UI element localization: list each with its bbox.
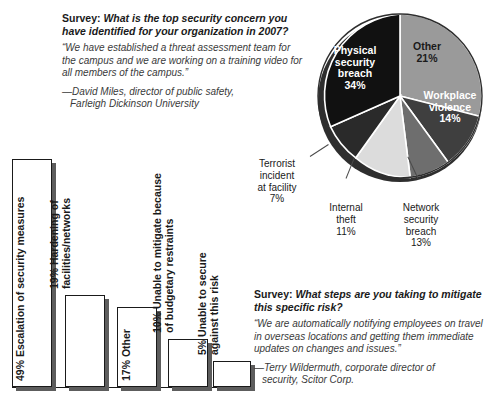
- callout-line2: theft: [336, 214, 355, 225]
- callout-line1: Internal: [329, 202, 362, 213]
- pie-chart: [314, 10, 486, 182]
- survey-top-heading-lead: Survey:: [62, 12, 101, 24]
- bar-label-escalation-of-security-measures: 49% Escalation of security measures: [14, 196, 26, 380]
- pie-callout-terrorist-incident: Terrorist incident at facility 7%: [244, 158, 310, 205]
- bar-label-line1: 10% Unable to mitigate because: [151, 173, 163, 333]
- survey-bottom-quote: “We are automatically notifying employee…: [254, 318, 486, 356]
- callout-line4: 7%: [270, 193, 284, 204]
- bar-label-line2: against this risk: [208, 252, 220, 355]
- survey-bottom-heading-lead: Survey:: [254, 288, 293, 300]
- survey-top-attribution: —David Miles, director of public safety,…: [62, 86, 304, 111]
- callout-line1: Terrorist: [259, 158, 295, 169]
- bar-label-unable-to-secure-against-risk: 5% Unable to secure against this risk: [196, 252, 220, 355]
- survey-top-attribution-line2: Farleigh Dickinson University: [62, 98, 304, 111]
- bar-label-hardening-of-facilities-networks: 19% Hardening of facilities/networks: [48, 197, 72, 288]
- bar-label-line1: 5% Unable to secure: [196, 252, 208, 355]
- survey-bottom-attribution-line1: —Terry Wildermuth, corporate director of: [254, 362, 435, 373]
- bar-chart: 49% Escalation of security measures 19% …: [12, 148, 252, 388]
- bar-label-line2: of budgetary restraints: [163, 173, 175, 333]
- bar-label-other: 17% Other: [120, 329, 132, 381]
- bar-label-line1: 19% Hardening of: [48, 200, 60, 289]
- survey-block-bottom: Survey: What steps are you taking to mit…: [254, 288, 486, 387]
- callout-line3: at facility: [258, 182, 297, 193]
- callout-line3: breach: [406, 226, 437, 237]
- callout-line4: 13%: [411, 237, 431, 248]
- survey-bottom-attribution: —Terry Wildermuth, corporate director of…: [254, 362, 486, 387]
- pie-chart-svg: [314, 10, 486, 182]
- callout-line2: security: [404, 214, 438, 225]
- survey-bottom-heading: Survey: What steps are you taking to mit…: [254, 288, 486, 314]
- bar-unable-to-secure-against-risk: 5% Unable to secure against this risk: [213, 361, 251, 387]
- bar-label-line1: 17% Other: [120, 329, 132, 381]
- survey-block-top: Survey: What is the top security concern…: [62, 12, 304, 111]
- survey-top-attribution-line1: —David Miles, director of public safety,: [62, 86, 234, 97]
- bar-body: [213, 361, 251, 387]
- bar-label-unable-to-mitigate-budgetary: 10% Unable to mitigate because of budget…: [151, 173, 175, 333]
- bar-label-line2: facilities/networks: [60, 197, 72, 288]
- bar-escalation-of-security-measures: 49% Escalation of security measures: [12, 159, 52, 387]
- pie-callout-network-security-breach: Network security breach 13%: [388, 202, 454, 249]
- callout-line2: incident: [260, 170, 294, 181]
- bar-hardening-of-facilities-networks: 19% Hardening of facilities/networks: [65, 295, 105, 387]
- callout-line3: 11%: [336, 226, 355, 237]
- pie-callout-internal-theft: Internal theft 11%: [318, 202, 374, 237]
- survey-top-quote: “We have established a threat assessment…: [62, 42, 304, 80]
- survey-top-heading: Survey: What is the top security concern…: [62, 12, 304, 38]
- bar-label-line1: 49% Escalation of security measures: [14, 196, 26, 380]
- bar-body: [65, 295, 105, 387]
- survey-bottom-attribution-line2: security, Scitor Corp.: [254, 374, 486, 387]
- callout-line1: Network: [403, 202, 440, 213]
